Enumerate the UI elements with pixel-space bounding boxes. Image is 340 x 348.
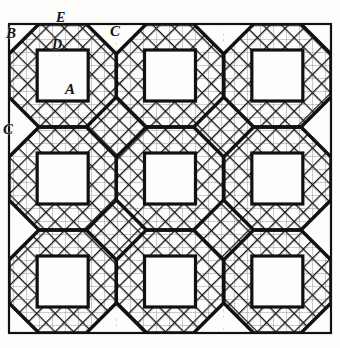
tiling-pattern-diagram [0, 0, 340, 348]
centre-square-r1c0 [37, 153, 88, 204]
centre-square-r0c0 [37, 50, 88, 101]
centre-square-r0c2 [252, 50, 303, 101]
centre-square-r1c2 [252, 153, 303, 204]
centre-square-r0c1 [145, 50, 196, 101]
centre-square-r2c0 [37, 256, 88, 307]
centre-squares [37, 50, 303, 307]
figure-root: B E D C C A [0, 0, 340, 348]
label-a: A [65, 82, 75, 97]
label-d: D [52, 38, 62, 52]
label-b: B [6, 26, 16, 41]
label-c-left: C [3, 122, 13, 137]
label-c-top: C [110, 24, 120, 39]
label-e: E [56, 11, 65, 25]
centre-square-r2c1 [145, 256, 196, 307]
centre-square-r2c2 [252, 256, 303, 307]
centre-square-r1c1 [145, 153, 196, 204]
